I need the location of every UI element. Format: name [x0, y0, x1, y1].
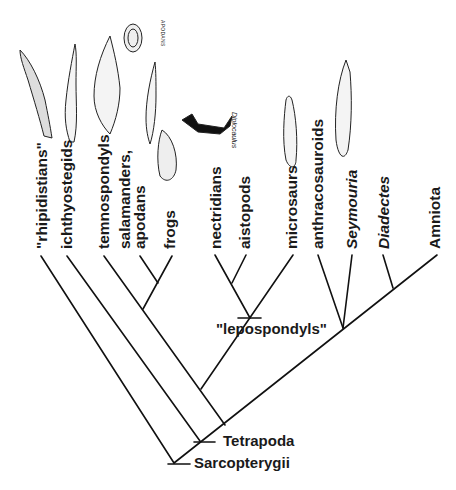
branch-frogs	[143, 256, 172, 309]
node-tetrapoda: Tetrapoda	[223, 432, 294, 449]
branch-anthracosauroids	[318, 255, 343, 328]
taxon-amniota: Amniota	[427, 187, 443, 249]
branch-seymouria	[343, 255, 352, 328]
branch-salamanders	[140, 256, 158, 283]
taxon-seymouria: Seymouria	[344, 170, 360, 249]
branch-temnospondyls	[104, 256, 225, 425]
temnospondyl-illustration	[94, 36, 120, 134]
taxon-frogs: frogs	[162, 210, 178, 249]
taxon-aistopods: aistopods	[237, 176, 253, 249]
branch-amniota-trunk	[174, 255, 437, 463]
taxon-anthracosauroids: anthracosauroids	[310, 119, 326, 249]
diplocaulus-illustration	[182, 114, 232, 134]
branch-aistopods	[232, 255, 246, 283]
branch-nectridians	[215, 255, 250, 318]
taxon-temnospondyls: temnospondyls	[96, 134, 112, 249]
microsaur-illustration	[284, 96, 297, 167]
diplocaulus-caption: Diplocaulus	[231, 112, 238, 148]
apodan-illustration	[124, 24, 142, 52]
taxon-nectridians: nectridians	[208, 166, 224, 249]
rhipidistian-illustration	[20, 50, 52, 138]
branch-rhipidistians	[41, 256, 174, 463]
salamander-illustration	[146, 62, 156, 144]
taxon-ichthyostegids: ichthyostegids	[59, 140, 75, 249]
taxon-diadectes: Diadectes	[376, 176, 392, 249]
ichthyostega-illustration	[65, 44, 76, 142]
taxon-apodans: apodans	[132, 185, 148, 249]
branch-ichthyostegids	[67, 256, 200, 441]
branch-diadectes	[383, 255, 393, 288]
taxon-rhipidistians: "rhipidistians"	[34, 142, 50, 249]
seymouria-illustration	[335, 60, 351, 156]
apodans-caption: APODANS	[160, 20, 166, 47]
node-lepospondyls: "lepospondyls"	[216, 320, 327, 337]
frog-illustration	[158, 130, 177, 180]
taxon-microsaurs: microsaurs	[284, 165, 300, 249]
node-sarcopterygii: Sarcopterygii	[194, 454, 290, 471]
